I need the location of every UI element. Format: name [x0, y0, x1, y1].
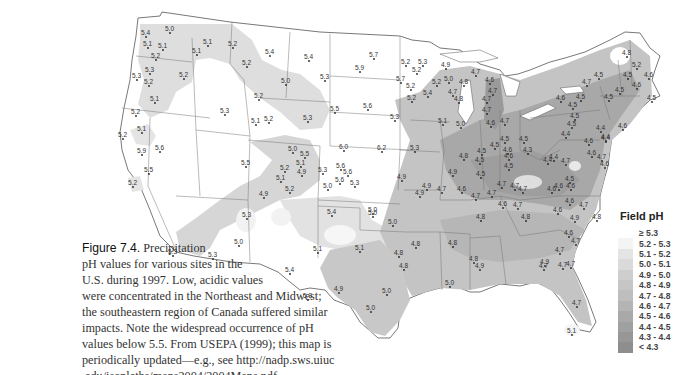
station-dot: [565, 137, 567, 139]
station-dot: [527, 153, 529, 155]
station-dot: [422, 65, 424, 67]
station-value: 5.0: [165, 25, 174, 32]
legend-swatch: [618, 301, 633, 311]
station-dot: [557, 213, 559, 215]
station-value: 5.2: [179, 71, 188, 78]
station-value: 5.3: [303, 114, 312, 121]
station-dot: [141, 132, 143, 134]
station-dot: [504, 142, 506, 144]
station-dot: [419, 196, 421, 198]
station-value: 4.8: [469, 255, 478, 262]
station-value: 4.8: [592, 213, 601, 220]
station-dot: [154, 102, 156, 104]
station-dot: [605, 141, 607, 143]
legend-item: 5.1 - 5.2: [618, 249, 698, 259]
legend-swatch: [618, 311, 633, 321]
station-dot: [575, 244, 577, 246]
station-value: 5.1: [296, 159, 305, 166]
station-value: 4.6: [486, 119, 495, 126]
station-value: 5.3: [390, 113, 399, 120]
station-dot: [147, 47, 149, 49]
station-value: 5.1: [567, 327, 576, 334]
station-value: 4.9: [448, 168, 457, 175]
station-value: 4.6: [600, 160, 609, 167]
station-value: 5.3: [350, 179, 359, 186]
station-dot: [373, 58, 375, 60]
station-value: 4.7: [561, 157, 570, 164]
station-value: 4.7: [488, 87, 497, 94]
station-dot: [475, 75, 477, 77]
station-value: 5.1: [192, 47, 201, 54]
station-value: 4.4: [596, 124, 605, 131]
station-value: 5.7: [369, 51, 378, 58]
station-value: 4.7: [597, 153, 606, 160]
legend-swatch: [618, 322, 633, 332]
legend-label: ≥ 5.3: [639, 228, 658, 238]
station-dot: [449, 286, 451, 288]
station-dot: [523, 142, 525, 144]
station-dot: [224, 114, 226, 116]
legend-item: 4.5 - 4.6: [618, 311, 698, 321]
station-dot: [141, 154, 143, 156]
station-value: 4.8: [521, 213, 530, 220]
station-value: 4.5: [647, 94, 656, 101]
station-dot: [558, 189, 560, 191]
legend-swatch: [618, 280, 633, 290]
station-value: 5.3: [242, 211, 251, 218]
station-dot: [285, 84, 287, 86]
legend-item: 4.4 - 4.5: [618, 322, 698, 332]
station-dot: [486, 113, 488, 115]
station-value: 4.6: [554, 182, 563, 189]
station-value: 4.5: [504, 162, 513, 169]
station-value: 4.6: [556, 94, 565, 101]
station-dot: [132, 186, 134, 188]
station-dot: [411, 101, 413, 103]
station-dot: [560, 101, 562, 103]
station-dot: [207, 45, 209, 47]
station-value: 5.9: [137, 147, 146, 154]
station-value: 5.2: [144, 78, 153, 85]
legend-label: 5.2 - 5.3: [639, 239, 671, 249]
station-value: 5.1: [143, 40, 152, 47]
station-dot: [246, 66, 248, 68]
station-dot: [562, 268, 564, 270]
station-dot: [392, 225, 394, 227]
station-dot: [490, 126, 492, 128]
station-dot: [543, 269, 545, 271]
station-dot: [565, 164, 567, 166]
station-value: 5.5: [241, 159, 250, 166]
station-value: 5.2: [285, 185, 294, 192]
legend-label: 4.7 - 4.8: [639, 291, 671, 301]
station-value: 5.7: [396, 75, 405, 82]
legend-swatch: [618, 238, 633, 248]
station-value: 5.1: [158, 42, 167, 49]
station-dot: [255, 124, 257, 126]
station-value: 5.2: [254, 92, 263, 99]
station-dot: [394, 120, 396, 122]
legend-swatch: [618, 228, 633, 238]
legend-item: 4.8 - 4.9: [618, 280, 698, 290]
station-marker: 4.8: [592, 213, 601, 222]
station-dot: [504, 124, 506, 126]
station-value: 5.3: [410, 144, 419, 151]
station-value: 5.4: [327, 208, 336, 215]
station-dot: [155, 59, 157, 61]
caption-line-9: .edu/isopleths/maps2004/2004Maps.pdf.: [40, 368, 370, 375]
station-dot: [489, 83, 491, 85]
station-dot: [596, 220, 598, 222]
legend-swatch: [618, 270, 633, 280]
station-dot: [381, 151, 383, 153]
legend: Field pH ≥ 5.35.2 - 5.35.1 - 5.25.0 - 5.…: [618, 210, 698, 353]
station-value: 4.7: [448, 88, 457, 95]
station-dot: [580, 100, 582, 102]
station-dot: [162, 49, 164, 51]
station-dot: [517, 208, 519, 210]
station-value: 4.8: [459, 78, 468, 85]
station-dot: [122, 138, 124, 140]
station-value: 4.6: [584, 137, 593, 144]
station-value: 5.0: [445, 279, 454, 286]
station-value: 4.5: [490, 141, 499, 148]
station-dot: [445, 68, 447, 70]
station-value: 5.2: [228, 40, 237, 47]
legend-item: 4.7 - 4.8: [618, 290, 698, 300]
